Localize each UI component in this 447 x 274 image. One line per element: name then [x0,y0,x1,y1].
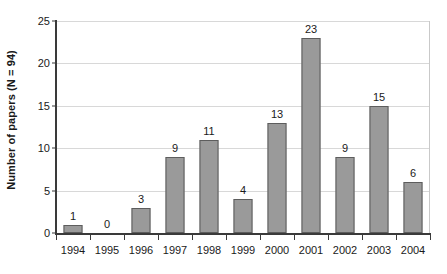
x-axis-tick-mark [328,235,329,240]
bar[interactable] [200,140,219,233]
x-axis-tick-label: 2004 [401,245,425,256]
bar-chart: Number of papers (N = 94) 0510152025 103… [0,0,447,274]
bar-value-label: 0 [104,219,110,230]
bar[interactable] [370,106,389,233]
bar[interactable] [336,157,355,233]
bar[interactable] [64,225,83,233]
x-axis-tick-label: 1997 [163,245,187,256]
bar-group[interactable]: 9 [158,21,192,233]
bar-value-label: 9 [342,143,348,154]
bar-value-label: 1 [70,211,76,222]
x-axis-tick-label: 1994 [61,245,85,256]
bar[interactable] [404,182,423,233]
y-axis-tick-label: 15 [24,100,50,111]
x-axis-tick-label: 1998 [197,245,221,256]
y-axis-tick-label: 25 [24,16,50,27]
x-axis-tick-mark [226,235,227,240]
bar-group[interactable]: 0 [90,21,124,233]
y-axis-tick-label: 5 [24,185,50,196]
y-axis-title-text: Number of papers (N = 94) [5,50,17,190]
bar-group[interactable]: 9 [328,21,362,233]
bar-group[interactable]: 6 [396,21,430,233]
bar-value-label: 9 [172,143,178,154]
x-axis-tick-mark [56,235,57,240]
x-axis-tick-mark [362,235,363,240]
y-axis-tick-labels: 0510152025 [24,0,50,274]
x-axis-tick-label: 2002 [333,245,357,256]
bar[interactable] [166,157,185,233]
x-axis-tick-label: 2000 [265,245,289,256]
x-axis-tick-labels: 1994199519961997199819992000200120022003… [56,245,430,263]
x-axis-tick-label: 2003 [367,245,391,256]
bars-layer: 103911413239156 [56,21,430,233]
bar-value-label: 15 [373,92,385,103]
plot-area: 103911413239156 [56,21,430,233]
y-axis-tick-label: 20 [24,58,50,69]
x-axis-tick-label: 1999 [231,245,255,256]
plot-frame-right-border [429,21,430,233]
bar-value-label: 6 [410,168,416,179]
x-axis-tick-mark [158,235,159,240]
x-axis-tick-mark [430,235,431,240]
x-axis-tick-mark [294,235,295,240]
bar-group[interactable]: 23 [294,21,328,233]
x-axis-tick-marks [56,235,431,241]
bar[interactable] [132,208,151,233]
x-axis-tick-label: 1995 [95,245,119,256]
bar-value-label: 4 [240,185,246,196]
x-axis-tick-mark [192,235,193,240]
x-axis-tick-label: 1996 [129,245,153,256]
bar-value-label: 3 [138,194,144,205]
bar-group[interactable]: 11 [192,21,226,233]
bar-group[interactable]: 3 [124,21,158,233]
bar-value-label: 13 [271,109,283,120]
bar[interactable] [302,38,321,233]
bar-group[interactable]: 1 [56,21,90,233]
x-axis-tick-mark [260,235,261,240]
bar-group[interactable]: 13 [260,21,294,233]
y-axis-tick-label: 0 [24,228,50,239]
x-axis-tick-mark [124,235,125,240]
bar-group[interactable]: 4 [226,21,260,233]
y-axis-title: Number of papers (N = 94) [0,0,22,240]
x-axis-tick-mark [396,235,397,240]
x-axis-tick-label: 2001 [299,245,323,256]
bar-value-label: 23 [305,24,317,35]
x-axis-tick-mark [90,235,91,240]
y-axis-tick-label: 10 [24,143,50,154]
bar[interactable] [234,199,253,233]
y-axis-line [55,20,57,234]
bar[interactable] [268,123,287,233]
bar-value-label: 11 [203,126,214,137]
bar-group[interactable]: 15 [362,21,396,233]
